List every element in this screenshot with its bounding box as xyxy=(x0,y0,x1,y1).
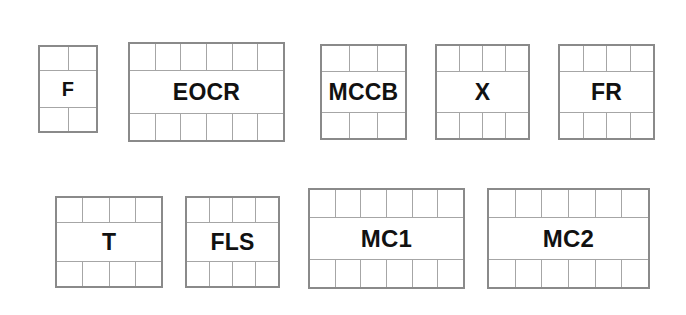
component-block-x[interactable]: X xyxy=(435,44,530,140)
component-block-eocr[interactable]: EOCR xyxy=(128,42,285,142)
terminal-cell[interactable] xyxy=(631,46,654,71)
terminal-cell[interactable] xyxy=(460,113,483,138)
component-block-mc2[interactable]: MC2 xyxy=(487,188,650,289)
terminal-cell[interactable] xyxy=(310,260,336,287)
terminal-cell[interactable] xyxy=(584,46,608,71)
terminal-cell[interactable] xyxy=(361,190,387,217)
component-block-fls[interactable]: FLS xyxy=(185,196,280,288)
terminal-cell[interactable] xyxy=(233,44,259,70)
terminal-cell[interactable] xyxy=(322,46,350,71)
terminal-cell[interactable] xyxy=(156,44,182,70)
terminal-strip-top-mc1 xyxy=(310,190,463,218)
terminal-cell[interactable] xyxy=(437,46,460,71)
terminal-cell[interactable] xyxy=(350,46,378,71)
terminal-cell[interactable] xyxy=(350,113,378,138)
terminal-cell[interactable] xyxy=(413,260,439,287)
terminal-cell[interactable] xyxy=(336,260,362,287)
terminal-cell[interactable] xyxy=(387,260,413,287)
terminal-strip-bottom-fls xyxy=(187,261,278,286)
terminal-cell[interactable] xyxy=(460,46,483,71)
terminal-cell[interactable] xyxy=(569,260,596,287)
terminal-cell[interactable] xyxy=(233,114,259,140)
terminal-cell[interactable] xyxy=(437,113,460,138)
component-layout-diagram: FEOCRMCCBXFRTFLSMC1MC2 xyxy=(0,0,686,315)
terminal-cell[interactable] xyxy=(378,113,405,138)
terminal-cell[interactable] xyxy=(210,262,233,286)
terminal-cell[interactable] xyxy=(187,262,210,286)
terminal-cell[interactable] xyxy=(516,190,543,217)
terminal-strip-bottom-mccb xyxy=(322,112,405,138)
terminal-strip-bottom-f xyxy=(40,107,96,131)
terminal-cell[interactable] xyxy=(181,44,207,70)
terminal-cell[interactable] xyxy=(622,260,648,287)
terminal-cell[interactable] xyxy=(181,114,207,140)
terminal-cell[interactable] xyxy=(413,190,439,217)
terminal-cell[interactable] xyxy=(207,44,233,70)
terminal-cell[interactable] xyxy=(569,190,596,217)
terminal-cell[interactable] xyxy=(130,44,156,70)
label-band-mccb: MCCB xyxy=(322,72,405,112)
terminal-cell[interactable] xyxy=(130,114,156,140)
terminal-cell[interactable] xyxy=(187,198,210,222)
terminal-cell[interactable] xyxy=(233,198,256,222)
terminal-cell[interactable] xyxy=(607,46,631,71)
terminal-cell[interactable] xyxy=(622,190,648,217)
terminal-cell[interactable] xyxy=(322,113,350,138)
terminal-cell[interactable] xyxy=(110,198,136,222)
terminal-cell[interactable] xyxy=(560,46,584,71)
terminal-cell[interactable] xyxy=(438,260,463,287)
terminal-cell[interactable] xyxy=(596,260,623,287)
terminal-cell[interactable] xyxy=(57,198,83,222)
component-block-mc1[interactable]: MC1 xyxy=(308,188,465,289)
terminal-cell[interactable] xyxy=(210,198,233,222)
terminal-strip-bottom-fr xyxy=(560,112,653,138)
terminal-cell[interactable] xyxy=(483,113,506,138)
terminal-cell[interactable] xyxy=(542,260,569,287)
component-block-fr[interactable]: FR xyxy=(558,44,655,140)
terminal-cell[interactable] xyxy=(542,190,569,217)
terminal-cell[interactable] xyxy=(258,44,283,70)
terminal-cell[interactable] xyxy=(336,190,362,217)
terminal-cell[interactable] xyxy=(156,114,182,140)
terminal-cell[interactable] xyxy=(69,47,97,70)
terminal-cell[interactable] xyxy=(506,46,528,71)
terminal-strip-top-fr xyxy=(560,46,653,72)
terminal-cell[interactable] xyxy=(489,190,516,217)
terminal-cell[interactable] xyxy=(69,108,97,131)
terminal-cell[interactable] xyxy=(584,113,608,138)
terminal-cell[interactable] xyxy=(258,114,283,140)
terminal-cell[interactable] xyxy=(607,113,631,138)
label-band-eocr: EOCR xyxy=(130,71,283,113)
component-block-t[interactable]: T xyxy=(55,196,163,288)
terminal-cell[interactable] xyxy=(596,190,623,217)
terminal-cell[interactable] xyxy=(40,108,69,131)
terminal-cell[interactable] xyxy=(438,190,463,217)
terminal-cell[interactable] xyxy=(483,46,506,71)
terminal-cell[interactable] xyxy=(256,262,278,286)
terminal-cell[interactable] xyxy=(207,114,233,140)
terminal-cell[interactable] xyxy=(256,198,278,222)
terminal-cell[interactable] xyxy=(83,262,109,286)
terminal-cell[interactable] xyxy=(233,262,256,286)
terminal-strip-top-t xyxy=(57,198,161,223)
component-block-mccb[interactable]: MCCB xyxy=(320,44,407,140)
terminal-cell[interactable] xyxy=(631,113,654,138)
terminal-cell[interactable] xyxy=(83,198,109,222)
terminal-cell[interactable] xyxy=(110,262,136,286)
terminal-cell[interactable] xyxy=(378,46,405,71)
terminal-cell[interactable] xyxy=(57,262,83,286)
terminal-cell[interactable] xyxy=(506,113,528,138)
terminal-cell[interactable] xyxy=(516,260,543,287)
terminal-cell[interactable] xyxy=(560,113,584,138)
terminal-cell[interactable] xyxy=(40,47,69,70)
terminal-strip-bottom-mc2 xyxy=(489,259,648,287)
terminal-cell[interactable] xyxy=(361,260,387,287)
component-label-mc2: MC2 xyxy=(543,227,594,251)
terminal-strip-bottom-x xyxy=(437,112,528,138)
terminal-cell[interactable] xyxy=(136,262,161,286)
terminal-cell[interactable] xyxy=(310,190,336,217)
terminal-cell[interactable] xyxy=(387,190,413,217)
terminal-cell[interactable] xyxy=(136,198,161,222)
terminal-cell[interactable] xyxy=(489,260,516,287)
component-block-f[interactable]: F xyxy=(38,45,98,133)
